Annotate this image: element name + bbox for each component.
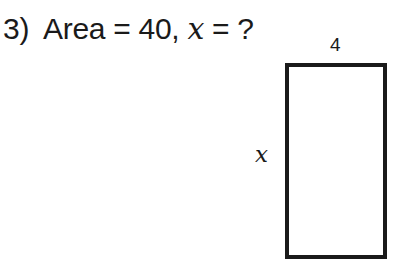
rectangle-figure: [285, 63, 387, 259]
problem-area-text: Area = 40,: [43, 12, 187, 45]
rectangle-height-label: x: [255, 141, 268, 167]
rectangle-width-label: 4: [330, 34, 341, 56]
problem-variable: x: [187, 11, 204, 46]
problem-number: 3): [3, 12, 29, 45]
problem-question-text: = ?: [204, 12, 254, 45]
problem-statement: 3)Area = 40, x = ?: [3, 12, 254, 46]
